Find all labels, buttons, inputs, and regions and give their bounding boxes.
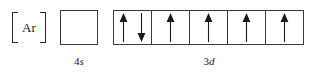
orbital-box: [60, 10, 98, 45]
electron-group: [228, 11, 265, 44]
electron-arrow-up-icon: [204, 13, 213, 42]
electron-arrow-up-icon: [119, 13, 128, 42]
orbital-box: [227, 10, 266, 45]
noble-gas-core: Ar: [6, 11, 52, 44]
subshell-3d-boxes: [113, 10, 304, 45]
subshell-orbital-letter: d: [209, 55, 215, 67]
electron-arrow-up-icon: [166, 13, 175, 42]
electron-arrow-up-icon: [242, 13, 251, 42]
electron-group: [61, 11, 97, 44]
orbital-box: [151, 10, 190, 45]
electron-group: [152, 11, 189, 44]
subshell-4s-boxes: [60, 10, 98, 45]
bracket-close-icon: [40, 12, 46, 43]
orbital-box-diagram: Ar 4s 3d: [0, 0, 313, 73]
subshell-orbital-letter: s: [80, 55, 84, 67]
orbital-box: [189, 10, 228, 45]
electron-group: [266, 11, 303, 44]
electron-group: [114, 11, 151, 44]
noble-gas-symbol: Ar: [18, 21, 40, 34]
orbital-box: [265, 10, 304, 45]
electron-arrow-up-icon: [280, 13, 289, 42]
electron-arrow-down-icon: [137, 13, 146, 42]
electron-group: [190, 11, 227, 44]
subshell-label-3d: 3d: [113, 56, 305, 67]
orbital-box: [113, 10, 152, 45]
subshell-label-4s: 4s: [60, 56, 98, 67]
